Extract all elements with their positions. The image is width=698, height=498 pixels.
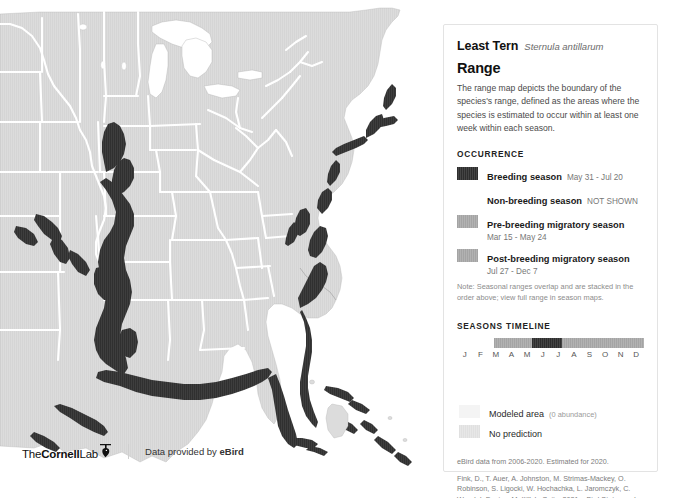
swatch-modeled-area-icon (459, 405, 480, 418)
citation-block: eBird data from 2006-2020. Estimated for… (457, 457, 644, 498)
range-map-canvas[interactable] (0, 0, 440, 498)
timeline-month-6: J (535, 350, 551, 359)
logo-text-cornell: Cornell (41, 448, 79, 460)
abundance-sub-modeled: (0 abundance) (549, 410, 597, 419)
legend-text-nonbreeding: Non-breeding seasonNOT SHOWN (487, 190, 644, 208)
seasons-timeline-heading: SEASONS TIMELINE (457, 321, 644, 331)
abundance-label-modeled: Modeled area (489, 409, 544, 419)
occurrence-legend: Breeding seasonMay 31 - Jul 20 Non-breed… (457, 166, 644, 276)
species-info-panel: Least Tern Sternula antillarum Range The… (443, 24, 658, 472)
lake-ontario (238, 70, 262, 80)
species-common-name: Least Tern (457, 39, 518, 53)
logo-text-the: The (22, 448, 41, 460)
bird-logo-icon (99, 443, 112, 460)
credit-prefix: Data provided by (145, 446, 219, 457)
timeline-month-labels: JFMAMJJASOND (457, 350, 644, 359)
legend-row-prebreeding[interactable]: Pre-breeding migratory season Mar 15 - M… (457, 214, 644, 242)
legend-text-postbreeding: Post-breeding migratory season Jul 27 - … (487, 248, 644, 276)
species-header: Least Tern Sternula antillarum (457, 39, 644, 53)
island-dot-1 (310, 380, 315, 384)
swatch-postbreeding-icon (457, 249, 478, 262)
seasons-timeline-bar[interactable] (457, 338, 644, 348)
legend-row-postbreeding[interactable]: Post-breeding migratory season Jul 27 - … (457, 248, 644, 276)
occurrence-note: Note: Seasonal ranges overlap and are st… (457, 282, 644, 303)
lake-small-3 (122, 62, 127, 70)
legend-row-nonbreeding[interactable]: Non-breeding seasonNOT SHOWN (457, 190, 644, 208)
legend-text-prebreeding: Pre-breeding migratory season Mar 15 - M… (487, 214, 644, 242)
data-credit: Data provided by eBird (145, 446, 244, 457)
citation-data-years: eBird data from 2006-2020. Estimated for… (457, 457, 644, 468)
credit-brand: eBird (220, 446, 244, 457)
legend-dates-prebreeding: Mar 15 - May 24 (487, 233, 644, 242)
abundance-text-noprediction: No prediction (489, 423, 542, 441)
legend-label-prebreeding: Pre-breeding migratory season (487, 220, 624, 230)
range-description: The range map depicts the boundary of th… (457, 82, 644, 135)
legend-dates-nonbreeding: NOT SHOWN (587, 197, 638, 206)
timeline-month-9: S (582, 350, 598, 359)
legend-dates-postbreeding: Jul 27 - Dec 7 (487, 267, 644, 276)
timeline-month-5: M (519, 350, 535, 359)
legend-dates-breeding: May 31 - Jul 20 (567, 173, 623, 182)
swatch-nonbreeding-icon (457, 191, 478, 204)
swatch-prebreeding-icon (457, 215, 478, 228)
legend-label-postbreeding: Post-breeding migratory season (487, 254, 630, 264)
citation-full: Fink, D., T. Auer, A. Johnston, M. Strim… (457, 474, 644, 498)
timeline-month-1: J (457, 350, 473, 359)
timeline-month-8: A (566, 350, 582, 359)
legend-label-nonbreeding: Non-breeding season (487, 196, 582, 206)
abundance-row-noprediction[interactable]: No prediction (459, 423, 644, 441)
timeline-month-7: J (550, 350, 566, 359)
lake-small-1 (79, 24, 87, 30)
timeline-segment-pre-breeding-migratory (494, 338, 531, 348)
logo-text-lab: Lab (79, 448, 98, 460)
timeline-month-2: F (473, 350, 489, 359)
cornell-lab-logo[interactable]: TheCornellLab (22, 443, 112, 460)
legend-text-breeding: Breeding seasonMay 31 - Jul 20 (487, 166, 644, 184)
species-scientific-name: Sternula antillarum (524, 41, 603, 52)
timeline-month-4: A (504, 350, 520, 359)
abundance-text-modeled: Modeled area(0 abundance) (489, 403, 597, 421)
seasons-timeline-block: SEASONS TIMELINE JFMAMJJASOND (457, 321, 644, 359)
legend-row-breeding[interactable]: Breeding seasonMay 31 - Jul 20 (457, 166, 644, 184)
occurrence-heading: OCCURRENCE (457, 149, 644, 159)
branding-bar: TheCornellLab Data provided by eBird (22, 440, 322, 462)
timeline-month-11: N (613, 350, 629, 359)
timeline-segment-post-breeding-migratory (562, 338, 644, 348)
legend-label-breeding: Breeding season (487, 172, 562, 182)
abundance-row-modeled[interactable]: Modeled area(0 abundance) (459, 403, 644, 421)
timeline-segment-breeding (532, 338, 562, 348)
page-title: Range (457, 60, 644, 76)
swatch-breeding-icon (457, 167, 478, 180)
swatch-no-prediction-icon (459, 425, 480, 438)
abundance-label-noprediction: No prediction (489, 429, 542, 439)
map-panel[interactable]: TheCornellLab Data provided by eBird (0, 0, 440, 498)
timeline-month-12: D (628, 350, 644, 359)
timeline-month-10: O (597, 350, 613, 359)
island-dot-2 (388, 416, 392, 419)
abundance-legend: Modeled area(0 abundance) No prediction (457, 403, 644, 441)
island-dot-3 (403, 438, 407, 441)
timeline-month-3: M (488, 350, 504, 359)
brand-divider (128, 444, 129, 459)
